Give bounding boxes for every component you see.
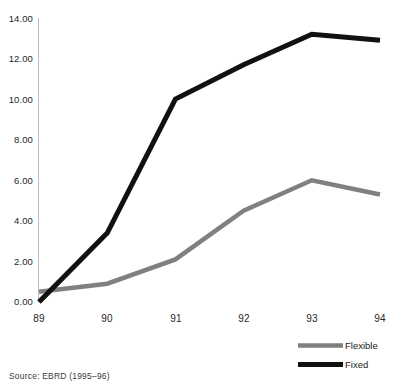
series-line-flexible <box>39 180 380 292</box>
legend-label-fixed: Fixed <box>345 359 368 370</box>
x-tick-label: 91 <box>170 313 182 324</box>
source-note: Source: EBRD (1995–96) <box>9 371 110 381</box>
chart-canvas: 14.00 12.00 10.00 8.00 6.00 4.00 2.00 0.… <box>0 0 400 392</box>
y-tick-label: 2.00 <box>14 256 33 267</box>
x-tick-label: 94 <box>374 313 386 324</box>
y-axis-tick-labels: 14.00 12.00 10.00 8.00 6.00 4.00 2.00 0.… <box>9 13 33 308</box>
x-axis-tick-labels: 89 90 91 92 93 94 <box>33 313 386 324</box>
y-tick-label: 6.00 <box>14 175 33 186</box>
y-tick-label: 0.00 <box>14 296 33 307</box>
line-chart: 14.00 12.00 10.00 8.00 6.00 4.00 2.00 0.… <box>0 0 400 392</box>
x-tick-label: 93 <box>306 313 318 324</box>
y-tick-label: 10.00 <box>9 94 33 105</box>
x-tick-label: 92 <box>238 313 250 324</box>
series-line-fixed <box>39 34 380 302</box>
y-tick-label: 4.00 <box>14 215 33 226</box>
x-tick-label: 89 <box>33 313 45 324</box>
y-tick-label: 8.00 <box>14 134 33 145</box>
y-tick-label: 14.00 <box>9 13 33 24</box>
y-tick-label: 12.00 <box>9 53 33 64</box>
x-tick-label: 90 <box>101 313 113 324</box>
chart-legend: Flexible Fixed <box>298 340 378 370</box>
legend-label-flexible: Flexible <box>345 340 378 351</box>
